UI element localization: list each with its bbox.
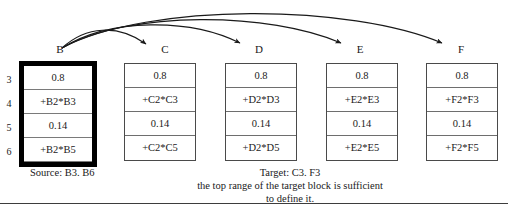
- arrow-b-to-e: [62, 20, 341, 48]
- cell-c3[interactable]: 0.8: [125, 64, 195, 88]
- target-block-e[interactable]: 0.8 +E2*E3 0.14 +E2*E5: [326, 63, 398, 161]
- arrow-b-to-d: [62, 25, 240, 48]
- column-letter-b: B: [50, 43, 70, 55]
- cell-f6[interactable]: +F2*F5: [427, 136, 497, 160]
- row-number-3: 3: [3, 74, 15, 86]
- column-letter-d: D: [249, 43, 269, 55]
- row-number-6: 6: [3, 146, 15, 158]
- cell-f5[interactable]: 0.14: [427, 112, 497, 136]
- cell-e5[interactable]: 0.14: [327, 112, 397, 136]
- cell-d4[interactable]: +D2*D3: [226, 88, 296, 112]
- row-number-4: 4: [3, 98, 15, 110]
- column-letter-f: F: [451, 43, 471, 55]
- cell-b3[interactable]: 0.8: [24, 66, 92, 90]
- target-caption-line-2: the top range of the target block is suf…: [150, 179, 430, 192]
- target-block-d[interactable]: 0.8 +D2*D3 0.14 +D2*D5: [225, 63, 297, 161]
- cell-e4[interactable]: +E2*E3: [327, 88, 397, 112]
- cell-b4[interactable]: +B2*B3: [24, 90, 92, 114]
- cell-e3[interactable]: 0.8: [327, 64, 397, 88]
- row-number-5: 5: [3, 122, 15, 134]
- source-block-b[interactable]: 0.8 +B2*B3 0.14 +B2*B5: [19, 61, 97, 167]
- cell-e6[interactable]: +E2*E5: [327, 136, 397, 160]
- cell-d5[interactable]: 0.14: [226, 112, 296, 136]
- arrow-b-to-c: [62, 30, 146, 48]
- cell-b5[interactable]: 0.14: [24, 114, 92, 138]
- cell-f4[interactable]: +F2*F3: [427, 88, 497, 112]
- cell-d6[interactable]: +D2*D5: [226, 136, 296, 160]
- cell-b6[interactable]: +B2*B5: [24, 138, 92, 162]
- cell-c6[interactable]: +C2*C5: [125, 136, 195, 160]
- cell-f3[interactable]: 0.8: [427, 64, 497, 88]
- cell-c5[interactable]: 0.14: [125, 112, 195, 136]
- cell-d3[interactable]: 0.8: [226, 64, 296, 88]
- target-block-f[interactable]: 0.8 +F2*F3 0.14 +F2*F5: [426, 63, 498, 161]
- column-letter-e: E: [350, 43, 370, 55]
- column-letter-c: C: [155, 43, 175, 55]
- target-caption-line-1: Target: C3. F3: [150, 166, 430, 179]
- target-block-c[interactable]: 0.8 +C2*C3 0.14 +C2*C5: [124, 63, 196, 161]
- spreadsheet-copy-diagram: B C D E F 3 4 5 6 0.8 +B2*B3 0.14 +B2*B5…: [0, 0, 508, 209]
- source-caption: Source: B3. B6: [30, 166, 94, 179]
- target-caption: Target: C3. F3 the top range of the targ…: [150, 166, 430, 205]
- cell-c4[interactable]: +C2*C3: [125, 88, 195, 112]
- bottom-divider: [0, 203, 508, 204]
